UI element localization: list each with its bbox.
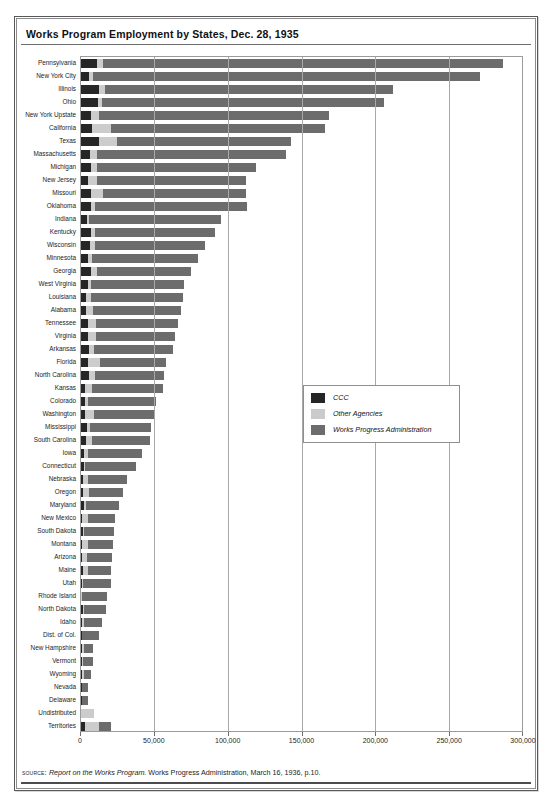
bar-row bbox=[81, 228, 215, 237]
y-axis-label: Wisconsin bbox=[10, 241, 76, 248]
bar-segment-wpa bbox=[92, 254, 198, 263]
bar-segment-wpa bbox=[84, 644, 93, 653]
bar-row bbox=[81, 254, 198, 263]
y-axis-label: Ohio bbox=[10, 98, 76, 105]
bottom-divider bbox=[21, 782, 531, 784]
bar-segment-wpa bbox=[83, 657, 93, 666]
bar-segment-wpa bbox=[103, 59, 503, 68]
bar-segment-wpa bbox=[88, 566, 111, 575]
bar-segment-wpa bbox=[117, 137, 291, 146]
y-axis-label: Oregon bbox=[10, 488, 76, 495]
bar-segment-wpa bbox=[88, 475, 126, 484]
legend-item-ccc: CCC bbox=[311, 391, 452, 404]
y-axis-label: Virginia bbox=[10, 332, 76, 339]
y-axis-label: Arizona bbox=[10, 553, 76, 560]
bar-row bbox=[81, 293, 183, 302]
bar-segment-other bbox=[86, 306, 93, 315]
bar-row bbox=[81, 631, 99, 640]
x-axis-tick bbox=[154, 732, 155, 736]
y-axis-label: Washington bbox=[10, 410, 76, 417]
y-axis-label: Idaho bbox=[10, 618, 76, 625]
bar-segment-wpa bbox=[103, 189, 245, 198]
bar-row bbox=[81, 306, 181, 315]
bar-row bbox=[81, 202, 247, 211]
bar-row bbox=[81, 163, 256, 172]
x-axis-tick-label: 200,000 bbox=[363, 737, 388, 744]
bar-row bbox=[81, 449, 142, 458]
legend-swatch-ccc bbox=[311, 393, 325, 403]
bar-row bbox=[81, 280, 184, 289]
bar-segment-wpa bbox=[96, 332, 175, 341]
bar-row bbox=[81, 696, 88, 705]
y-axis-label: West Virginia bbox=[10, 280, 76, 287]
source-title: Report on the Works Program. bbox=[49, 768, 146, 777]
y-axis-labels: PennsylvaniaNew York CityIllinoisOhioNew… bbox=[10, 56, 76, 732]
bar-row bbox=[81, 111, 329, 120]
bar-row bbox=[81, 319, 178, 328]
x-axis-tick-label: 300,000 bbox=[510, 737, 535, 744]
legend-swatch-wpa bbox=[311, 425, 325, 435]
bar-segment-wpa bbox=[97, 267, 191, 276]
bar-segment-wpa bbox=[87, 553, 111, 562]
y-axis-label: Connecticut bbox=[10, 462, 76, 469]
bar-segment-other bbox=[81, 709, 94, 718]
y-axis-label: Oklahoma bbox=[10, 202, 76, 209]
bar-segment-wpa bbox=[91, 280, 184, 289]
y-axis-label: Maryland bbox=[10, 501, 76, 508]
bar-segment-ccc bbox=[81, 150, 90, 159]
y-axis-label: Kansas bbox=[10, 384, 76, 391]
bar-row bbox=[81, 215, 221, 224]
bar-segment-wpa bbox=[84, 618, 102, 627]
bar-segment-wpa bbox=[91, 293, 183, 302]
y-axis-label: South Dakota bbox=[10, 527, 76, 534]
y-axis-label: New Mexico bbox=[10, 514, 76, 521]
y-axis-label: Tennessee bbox=[10, 319, 76, 326]
bar-segment-wpa bbox=[85, 462, 136, 471]
bar-segment-other bbox=[88, 332, 96, 341]
bar-row bbox=[81, 553, 112, 562]
bar-row bbox=[81, 72, 480, 81]
legend-label-ccc: CCC bbox=[333, 393, 349, 402]
bar-row bbox=[81, 683, 88, 692]
y-axis-label: California bbox=[10, 124, 76, 131]
x-axis-tick bbox=[228, 732, 229, 736]
y-axis-label: Nevada bbox=[10, 683, 76, 690]
source-note: source: Report on the Works Program. Wor… bbox=[22, 768, 320, 777]
bar-row bbox=[81, 722, 111, 731]
y-axis-label: Michigan bbox=[10, 163, 76, 170]
bar-segment-other bbox=[85, 410, 93, 419]
x-axis-tick-label: 250,000 bbox=[437, 737, 462, 744]
bar-segment-wpa bbox=[84, 527, 114, 536]
legend-item-wpa: Works Progress Administration bbox=[311, 423, 452, 436]
bar-row bbox=[81, 332, 175, 341]
bar-segment-wpa bbox=[88, 540, 114, 549]
bar-row bbox=[81, 566, 111, 575]
bar-segment-wpa bbox=[93, 306, 182, 315]
y-axis-label: Territories bbox=[10, 722, 76, 729]
bar-segment-wpa bbox=[82, 683, 88, 692]
legend-label-other-agencies: Other Agencies bbox=[333, 409, 382, 418]
bar-row bbox=[81, 462, 136, 471]
bar-segment-wpa bbox=[95, 202, 247, 211]
bar-segment-other bbox=[88, 176, 97, 185]
y-axis-label: Maine bbox=[10, 566, 76, 573]
bar-segment-ccc bbox=[81, 267, 91, 276]
bar-segment-other bbox=[85, 384, 92, 393]
y-axis-label: Pennsylvania bbox=[10, 59, 76, 66]
y-axis-label: Arkansas bbox=[10, 345, 76, 352]
bar-segment-wpa bbox=[111, 124, 324, 133]
bar-segment-ccc bbox=[81, 241, 90, 250]
bar-segment-ccc bbox=[81, 189, 91, 198]
bar-row bbox=[81, 657, 93, 666]
bar-row bbox=[81, 709, 94, 718]
bar-segment-wpa bbox=[88, 449, 143, 458]
bar-row bbox=[81, 59, 503, 68]
y-axis-label: Dist. of Col. bbox=[10, 631, 76, 638]
bar-segment-ccc bbox=[81, 111, 91, 120]
bar-segment-other bbox=[85, 722, 99, 731]
bar-row bbox=[81, 150, 286, 159]
bar-segment-wpa bbox=[99, 722, 112, 731]
y-axis-label: New Jersey bbox=[10, 176, 76, 183]
bar-segment-ccc bbox=[81, 345, 89, 354]
bar-segment-wpa bbox=[95, 241, 205, 250]
